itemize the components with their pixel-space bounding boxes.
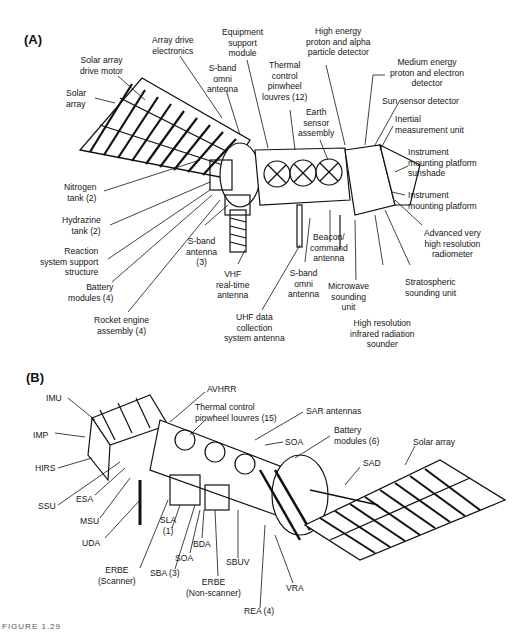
label-s-band-omni-antenna-bottom: S-band omni antenna (288, 268, 319, 300)
label-uhf-antenna: UHF data collection system antenna (224, 312, 285, 344)
label-nitrogen-tank: Nitrogen tank (2) (64, 182, 96, 203)
label-equipment-support-module: Equipment support module (222, 27, 263, 59)
label-ssu: SSU (38, 501, 56, 512)
label-thermal-louvres-b: Thermal control pinwheel louvres (15) (195, 402, 277, 423)
label-s-band-antenna-3: S-band antenna (3) (186, 236, 217, 268)
label-array-drive-electronics: Array drive electronics (152, 35, 194, 56)
label-medium-energy-detector: Medium energy proton and electron detect… (390, 57, 464, 89)
label-inertial-measurement-unit: Inertial measurement unit (395, 114, 464, 135)
label-s-band-omni-antenna-top: S-band omni antenna (207, 63, 238, 95)
label-soa-bottom: SOA (175, 553, 193, 564)
panel-b-solar-array-art (305, 460, 505, 560)
label-sun-sensor-detector: Sun sensor detector (382, 96, 459, 107)
label-imu: IMU (46, 393, 62, 404)
panel-a-label: (A) (24, 32, 42, 47)
label-bda: BDA (193, 539, 211, 550)
label-battery-modules-6: Battery modules (6) (334, 425, 379, 446)
label-beacon-command-antenna: Beacon/ command antenna (310, 232, 348, 264)
label-avhrr: Advanced very high resolution radiometer (424, 228, 481, 260)
label-uda: UDA (82, 538, 100, 549)
label-hirs-b: HIRS (35, 463, 56, 474)
label-avhrr-b: AVHRR (207, 384, 236, 395)
label-rea: REA (4) (244, 606, 274, 617)
label-vra: VRA (286, 583, 304, 594)
label-sla: SLA (1) (160, 515, 176, 536)
label-esa: ESA (76, 494, 93, 505)
label-battery-modules-4: Battery modules (4) (68, 282, 113, 303)
label-sad: SAD (363, 458, 381, 469)
label-sba: SBA (3) (150, 568, 180, 579)
panel-b-label: (B) (26, 370, 44, 385)
label-msu: MSU (80, 516, 99, 527)
label-sbuv: SBUV (226, 557, 249, 568)
label-high-energy-detector: High energy proton and alpha particle de… (306, 26, 371, 58)
label-stratospheric-sounding-unit: Stratospheric sounding unit (405, 277, 456, 298)
label-reaction-support: Reaction system support structure (40, 246, 98, 278)
label-erbe-nonscanner: ERBE (Non-scanner) (186, 577, 241, 598)
label-hirs: High resolution infrared radiation sound… (350, 318, 415, 350)
label-solar-array-b: Solar array (413, 437, 455, 448)
label-soa-top: SOA (285, 437, 303, 448)
label-solar-array-drive-motor: Solar array drive motor (80, 55, 123, 76)
label-solar-array: Solar array (66, 88, 86, 109)
label-microwave-sounding-unit: Microwave sounding unit (328, 281, 369, 313)
label-instrument-platform-sunshade: Instrument mounting platform sunshade (408, 147, 477, 179)
label-instrument-mounting-platform: Instrument mounting platform (408, 190, 477, 211)
figure-caption: FIGURE 1.29 (2, 622, 61, 631)
label-imp: IMP (33, 430, 48, 441)
label-hydrazine-tank: Hydrazine tank (2) (62, 215, 101, 236)
label-erbe-scanner: ERBE (Scanner) (98, 565, 136, 586)
label-earth-sensor-assembly: Earth sensor assembly (298, 107, 334, 139)
label-rocket-engine: Rocket engine assembly (4) (94, 315, 149, 336)
label-sar-antennas: SAR antennas (306, 406, 361, 417)
label-thermal-control-louvres: Thermal control pinwheel louvres (12) (262, 60, 307, 102)
label-vhf-antenna: VHF real-time antenna (216, 269, 249, 301)
